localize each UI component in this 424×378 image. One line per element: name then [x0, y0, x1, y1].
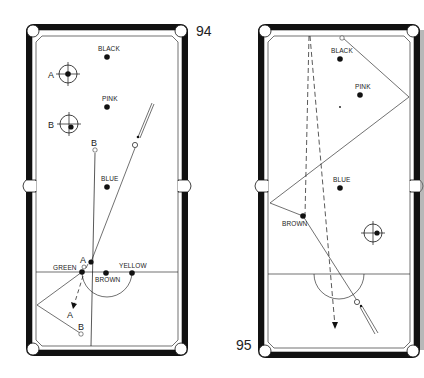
label-a-top: A: [80, 255, 86, 265]
label-brown: BROWN: [282, 220, 308, 227]
pocket-top-left: [259, 25, 271, 37]
label-pink: PINK: [102, 95, 118, 102]
diagram-94: 94 BLACK PINK BLUE GREEN BROWN YELLOW A: [23, 23, 212, 356]
cue-ball-position-a: [88, 259, 93, 264]
ball-blue: [104, 184, 110, 190]
pocket-bottom-right: [175, 343, 187, 355]
label-pink: PINK: [355, 83, 371, 90]
label-brown: BROWN: [95, 276, 121, 283]
ball-black: [337, 56, 343, 62]
pink-spot: [339, 106, 341, 108]
diagram-number: 94: [196, 23, 212, 39]
playing-surface: [36, 36, 178, 346]
label-green: GREEN: [53, 264, 77, 271]
ball-black: [104, 54, 110, 60]
pocket-bottom-left: [259, 345, 271, 357]
cue-tip: [137, 136, 140, 139]
diagram-number: 95: [236, 337, 252, 353]
label-black: BLACK: [98, 45, 120, 52]
label-a-bottom: A: [67, 310, 73, 320]
ball-yellow: [129, 270, 135, 276]
label-black: BLACK: [331, 47, 353, 54]
label-blue: BLUE: [101, 175, 119, 182]
ghost-ball-b-bottom: [79, 332, 83, 336]
cue-tip: [360, 305, 362, 307]
page-edge-shadow: [420, 30, 424, 350]
label-b-bottom: B: [78, 322, 84, 332]
label-b-top: B: [91, 138, 97, 148]
cue-ball: [132, 142, 137, 147]
pocket-bottom-right: [407, 345, 419, 357]
pocket-top-right: [175, 25, 187, 37]
pocket-top-left: [27, 25, 39, 37]
ghost-ball-b-top: [93, 148, 97, 152]
ghost-ball-top: [340, 36, 344, 40]
pocket-bottom-left: [27, 343, 39, 355]
label-blue: BLUE: [333, 176, 351, 183]
ball-pink: [357, 92, 363, 98]
ball-blue: [337, 185, 343, 191]
ball-pink: [104, 104, 110, 110]
diagram-95: 95 BLACK PINK BLUE BROWN: [236, 24, 424, 358]
ball-brown: [103, 270, 109, 276]
pocket-top-right: [407, 25, 419, 37]
label-yellow: YELLOW: [119, 262, 147, 269]
marker-b-label: B: [48, 120, 54, 130]
cue-ball: [354, 299, 359, 304]
playing-surface: [268, 36, 410, 348]
marker-a-label: A: [48, 70, 54, 80]
